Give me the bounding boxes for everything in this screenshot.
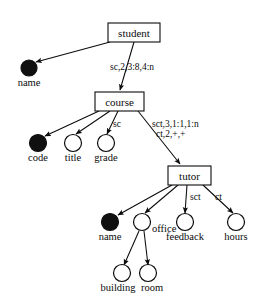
node-circle-solid — [30, 135, 47, 152]
edge-tutor-to-name — [118, 185, 172, 215]
edge-line — [36, 42, 110, 62]
node-code[interactable]: code — [28, 135, 48, 164]
node-circle-open — [98, 135, 115, 152]
node-course[interactable]: course — [95, 92, 144, 111]
edge-course-to-grade: sc — [107, 111, 121, 134]
edge-line — [144, 231, 148, 265]
node-circle-open — [228, 214, 245, 231]
node-circle-open — [177, 214, 194, 231]
edge-tutor-to-office — [145, 185, 178, 213]
edge-line — [118, 185, 172, 215]
node-label: course — [105, 96, 134, 108]
node-tutor_name[interactable]: name — [99, 214, 122, 243]
node-label: room — [141, 282, 163, 293]
edge-line — [145, 185, 178, 213]
node-circle-open — [140, 265, 157, 282]
edge-student-to-course: sc,2,3:8,4:n — [110, 42, 154, 90]
edge-label: sct — [190, 192, 201, 202]
edge-label-secondary: ct,2,+,+ — [156, 129, 185, 139]
node-student_name[interactable]: name — [18, 60, 41, 88]
node-label: building — [100, 282, 136, 293]
edge-line — [76, 111, 110, 134]
node-hours[interactable]: hours — [224, 214, 247, 243]
node-circle-solid — [21, 60, 37, 76]
edge-office-to-building — [124, 231, 139, 265]
node-room[interactable]: room — [140, 265, 164, 294]
node-label: student — [118, 27, 150, 39]
edge-label: sct,3,1:1,1:n — [152, 119, 199, 129]
node-label: title — [65, 152, 82, 163]
edge-line — [185, 185, 187, 213]
schema-diagram: sc,2,3:8,4:nscsct,3,1:1,1:nct,2,+,+sctct… — [0, 0, 274, 303]
edge-label: sc,2,3:8,4:n — [110, 62, 154, 72]
edge-student-to-name — [36, 42, 110, 62]
node-label: hours — [224, 231, 247, 242]
edge-course-to-title — [76, 111, 110, 134]
node-label: name — [18, 77, 41, 88]
node-label: code — [28, 152, 48, 163]
node-circle-solid — [102, 214, 119, 231]
edge-course-to-tutor: sct,3,1:1,1:nct,2,+,+ — [138, 111, 199, 164]
node-student[interactable]: student — [108, 23, 160, 42]
diagram-canvas: sc,2,3:8,4:nscsct,3,1:1,1:nct,2,+,+sctct… — [0, 0, 274, 303]
node-title[interactable]: title — [65, 135, 82, 164]
node-building[interactable]: building — [100, 265, 136, 294]
node-grade[interactable]: grade — [94, 135, 118, 164]
edge-label: sc — [113, 119, 121, 129]
node-circle-open — [134, 214, 151, 231]
node-label: tutor — [179, 170, 200, 182]
node-tutor[interactable]: tutor — [168, 166, 211, 185]
node-circle-open — [65, 135, 82, 152]
node-circle-open — [114, 265, 131, 282]
edge-label: ct — [215, 192, 222, 202]
node-label: name — [99, 231, 122, 242]
edge-tutor-to-hours: ct — [203, 185, 233, 213]
node-label: grade — [94, 152, 118, 163]
edge-line — [124, 231, 139, 265]
edge-office-to-room — [144, 231, 148, 265]
node-label: feedback — [166, 231, 205, 242]
edge-tutor-to-feedback: sct — [185, 185, 201, 213]
